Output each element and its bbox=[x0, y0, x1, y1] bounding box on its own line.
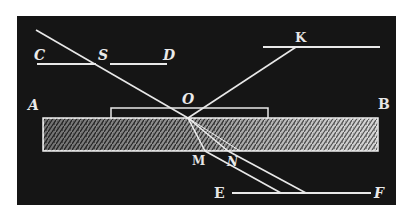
label-a: A bbox=[26, 97, 39, 113]
label-s: S bbox=[98, 47, 108, 63]
refraction-diagram: C S D K A B O M N E F bbox=[0, 0, 411, 224]
label-e: E bbox=[214, 185, 225, 201]
label-f: F bbox=[373, 185, 385, 201]
label-k: K bbox=[295, 30, 307, 45]
label-m: M bbox=[192, 154, 205, 168]
label-b: B bbox=[378, 96, 390, 112]
glass-slab-shade bbox=[44, 119, 377, 150]
label-c: C bbox=[34, 47, 45, 63]
label-n: N bbox=[226, 155, 239, 169]
diagram-background bbox=[17, 16, 396, 205]
label-o: O bbox=[182, 91, 195, 107]
label-d: D bbox=[162, 47, 176, 63]
